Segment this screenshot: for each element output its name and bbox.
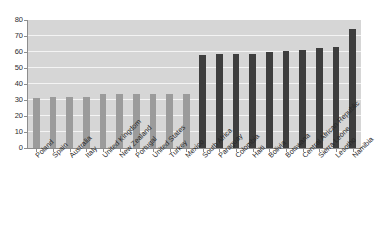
x-tick-label: Bolivia [267, 139, 288, 160]
x-tick-mark [153, 149, 154, 152]
x-tick-mark [70, 149, 71, 152]
x-tick-mark [336, 149, 337, 152]
y-tick-mark [24, 36, 27, 37]
y-tick-mark [24, 148, 27, 149]
x-tick-mark [186, 149, 187, 152]
x-tick-mark [286, 149, 287, 152]
y-tick-mark [24, 68, 27, 69]
y-tick-mark [24, 84, 27, 85]
x-tick-mark [353, 149, 354, 152]
x-tick-mark [269, 149, 270, 152]
x-tick-mark [53, 149, 54, 152]
x-tick-mark [203, 149, 204, 152]
y-tick-mark [24, 100, 27, 101]
x-tick-mark [219, 149, 220, 152]
x-tick-mark [136, 149, 137, 152]
x-tick-mark [103, 149, 104, 152]
x-tick-mark [86, 149, 87, 152]
x-tick-label: Italy [84, 145, 99, 160]
y-tick-mark [24, 132, 27, 133]
x-tick-mark [253, 149, 254, 152]
x-tick-mark [120, 149, 121, 152]
x-tick-mark [170, 149, 171, 152]
x-tick-mark [319, 149, 320, 152]
x-tick-mark [36, 149, 37, 152]
x-tick-mark [236, 149, 237, 152]
y-tick-mark [24, 116, 27, 117]
y-tick-mark [24, 20, 27, 21]
x-tick-mark [303, 149, 304, 152]
y-tick-mark [24, 52, 27, 53]
